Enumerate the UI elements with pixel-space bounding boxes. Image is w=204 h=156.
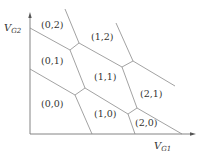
charge-stability-diagram: VG2 VG1 (0,2) (0,1) (1,2) (1,1) (0,0) (1… (0, 0, 204, 156)
region-label-0-0: (0,0) (41, 98, 64, 109)
region-label-1-0: (1,0) (94, 108, 117, 119)
x-axis-arrow-icon (190, 132, 196, 135)
region-label-1-2: (1,2) (91, 31, 114, 42)
region-label-2-1: (2,1) (140, 88, 163, 99)
x-axis-label: VG1 (154, 140, 171, 153)
region-label-0-2: (0,2) (41, 19, 64, 30)
y-axis-label: VG2 (4, 22, 22, 35)
region-label-1-1: (1,1) (94, 71, 117, 82)
region-label-0-1: (0,1) (41, 55, 64, 66)
region-label-2-0: (2,0) (135, 117, 158, 128)
y-axis-arrow-icon (28, 12, 31, 18)
